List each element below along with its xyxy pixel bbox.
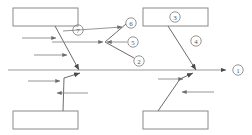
label-4-text: 4 [194, 38, 198, 46]
branch-bottom-right-lower [158, 79, 180, 111]
label-5: 5 [128, 37, 138, 47]
label-5-text: 5 [131, 39, 135, 47]
mid-arm-down [105, 42, 134, 58]
fishbone-canvas: 1 2 3 4 5 6 [0, 0, 252, 135]
fishbone-diagram: 1 2 3 4 5 6 [0, 0, 252, 135]
label-3-text: 3 [173, 14, 177, 22]
box-top-left[interactable] [13, 8, 78, 26]
branch-bottom-left-upper [64, 73, 80, 78]
branch-bottom-right-upper [180, 73, 193, 79]
label-4: 4 [191, 36, 201, 46]
twig-label-7-to-6 [63, 27, 122, 31]
major-branches-group [55, 26, 196, 111]
mid-cluster-group [52, 24, 134, 58]
label-6: 6 [126, 18, 136, 28]
label-2: 2 [134, 56, 144, 66]
sub-cause-twigs-group [22, 38, 214, 93]
cause-boxes-group [13, 8, 208, 129]
label-7-text: 7 [76, 27, 80, 35]
branch-top-right [168, 26, 196, 70]
label-1-text: 1 [236, 67, 240, 75]
mid-arm-up [105, 24, 126, 42]
box-top-left-rect[interactable] [13, 8, 78, 26]
label-6-text: 6 [129, 20, 133, 28]
label-2-text: 2 [137, 58, 141, 66]
label-1: 1 [233, 65, 243, 75]
box-bottom-left-rect[interactable] [13, 111, 78, 129]
branch-bottom-left-lower [63, 78, 64, 111]
box-bottom-right[interactable] [143, 111, 208, 129]
box-bottom-left[interactable] [13, 111, 78, 129]
box-bottom-right-rect[interactable] [143, 111, 208, 129]
